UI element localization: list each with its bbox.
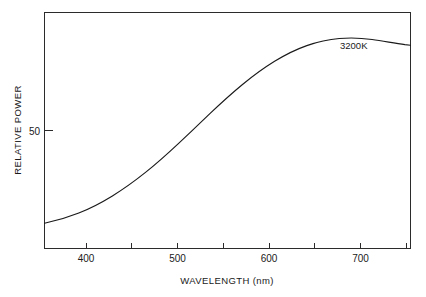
curve-annotation-3200k: 3200K	[340, 40, 368, 51]
x-tick-label-700: 700	[352, 253, 369, 264]
x-axis-title: WAVELENGTH (nm)	[180, 275, 274, 286]
relative-power-spectral-chart: 400 500 600 700 50 WAVELENGTH (nm) RELAT…	[0, 0, 426, 297]
chart-figure: 400 500 600 700 50 WAVELENGTH (nm) RELAT…	[0, 0, 426, 297]
x-tick-label-600: 600	[261, 253, 278, 264]
x-tick-label-500: 500	[169, 253, 186, 264]
y-axis-title: RELATIVE POWER	[12, 85, 23, 174]
y-tick-label-50: 50	[29, 126, 41, 137]
x-tick-label-400: 400	[78, 253, 95, 264]
